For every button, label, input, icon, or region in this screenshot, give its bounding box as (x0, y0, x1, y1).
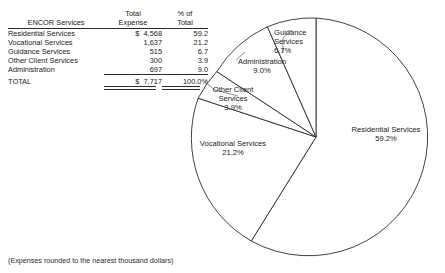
pie-label-administration-line1: Administration (218, 57, 306, 66)
cell-service: Other Client Services (8, 56, 104, 65)
figure-footnote: (Expenses rounded to the nearest thousan… (8, 256, 173, 265)
pie-label-residential: Residential Services 59.2% (332, 125, 440, 143)
pie-slice-vocational (191, 98, 316, 241)
header-services-label: ENCOR Services (8, 19, 104, 28)
expense-table-container: ENCOR Services Total Expense % of Total (8, 10, 208, 90)
pie-label-guidance-line1: Guidance (274, 28, 332, 37)
expense-value: 4,568 (144, 29, 163, 38)
table-total-row: TOTAL $ 7,717 100.0% (8, 75, 208, 87)
currency-symbol: $ (135, 29, 139, 38)
pie-label-residential-percent: 59.2% (332, 134, 440, 143)
double-rule-spacer (8, 86, 104, 90)
pie-label-administration: Administration 9.0% (218, 57, 306, 75)
pie-label-vocational: Vocational Services 21.2% (170, 139, 296, 157)
pie-label-other-client-line1: Other Client (201, 85, 265, 94)
table-header-row: ENCOR Services Total Expense % of Total (8, 10, 208, 27)
cell-total-expense: $ 7,717 (104, 75, 162, 87)
total-expense-value: 7,717 (144, 77, 163, 86)
pie-label-guidance-percent: 6.7% (274, 46, 332, 55)
header-services: ENCOR Services (8, 10, 104, 27)
expense-value: 300 (150, 56, 162, 65)
cell-service: Administration (8, 65, 104, 75)
pie-label-administration-percent: 9.0% (218, 66, 306, 75)
expense-value: 1,637 (144, 38, 163, 47)
double-rule-expense (104, 86, 162, 90)
pie-label-vocational-percent: 21.2% (170, 148, 296, 157)
expense-value: 697 (150, 65, 162, 74)
table-row: Administration 697 9.0 (8, 65, 208, 75)
cell-total-label: TOTAL (8, 75, 104, 87)
cell-expense: 697 (104, 65, 162, 75)
table-row: Other Client Services 300 3.9 (8, 56, 208, 65)
expense-figure: ENCOR Services Total Expense % of Total (0, 0, 445, 273)
currency-symbol: $ (135, 77, 139, 86)
header-total-expense-line2: Expense (104, 19, 162, 28)
expense-value: 515 (150, 47, 162, 56)
header-total-expense: Total Expense (104, 10, 162, 27)
pie-label-guidance: Guidance Services 6.7% (274, 28, 332, 55)
header-percent-total-line2: Total (162, 19, 208, 28)
table-body: Residential Services $ 4,568 59.2 Vocati… (8, 29, 208, 90)
total-double-rule (8, 86, 208, 90)
expense-table: ENCOR Services Total Expense % of Total (8, 10, 208, 90)
pie-label-other-client-percent: 3.9% (201, 103, 265, 112)
pie-label-other-client: Other Client Services 3.9% (201, 85, 265, 112)
header-percent-total: % of Total (162, 10, 208, 27)
pie-label-residential-line1: Residential Services (332, 125, 440, 134)
cell-percent: 9.0 (162, 65, 208, 75)
pie-label-other-client-line2: Services (201, 94, 265, 103)
pie-label-guidance-line2: Services (274, 37, 332, 46)
pie-label-vocational-line1: Vocational Services (170, 139, 296, 148)
